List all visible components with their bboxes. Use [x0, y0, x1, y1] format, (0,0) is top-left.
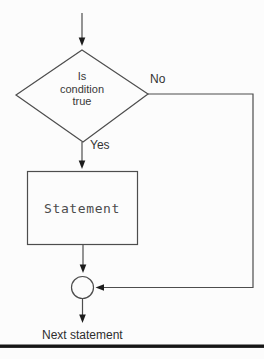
decision-text-line2: condition: [42, 83, 122, 96]
connector-circle-shape: [72, 277, 94, 299]
no-branch-arrowhead-icon: [96, 284, 105, 291]
bottom-rule: [0, 345, 264, 348]
decision-text-line1: Is: [42, 70, 122, 83]
yes-branch-label: Yes: [90, 138, 110, 152]
flowchart-shapes: [0, 0, 264, 359]
decision-text: Is condition true: [42, 70, 122, 108]
next-statement-label: Next statement: [42, 328, 123, 342]
process-statement-label: Statement: [27, 201, 137, 216]
no-branch-line: [100, 94, 253, 288]
yes-branch-arrowhead-icon: [79, 161, 86, 170]
flowchart-diagram: Is condition true No Yes Statement Next …: [0, 0, 264, 359]
process-to-connector-arrowhead-icon: [80, 265, 87, 274]
exit-arrowhead-icon: [79, 315, 86, 324]
no-branch-label: No: [150, 72, 165, 86]
entry-arrowhead-icon: [79, 38, 86, 47]
decision-text-line3: true: [42, 95, 122, 108]
